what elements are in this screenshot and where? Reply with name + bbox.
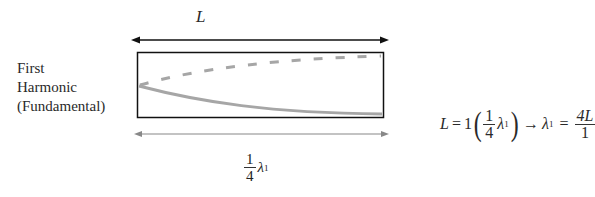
eq-rhs-equals: = (559, 115, 568, 133)
solid-wave-curve (139, 86, 382, 114)
eq-rhs-den: 1 (581, 125, 589, 141)
length-label: L (196, 7, 205, 26)
eq-rhs-lambda-sub: 1 (549, 119, 554, 129)
dashed-wave-curve (140, 56, 381, 85)
quarter-wavelength-label: 1 4 λ1 (244, 151, 269, 184)
eq-rhs-fraction: 4L 1 (575, 108, 595, 141)
length-arrow (131, 37, 389, 44)
lambda-subscript: 1 (264, 163, 269, 173)
eq-rhs-lambda: λ (542, 115, 549, 133)
quarter-wavelength-arrow (134, 131, 389, 137)
eq-rhs-num: 4L (575, 108, 595, 125)
harmonic-label-line-3: (Fundamental) (17, 97, 105, 116)
fraction-denominator: 4 (246, 168, 254, 184)
eq-fraction: 1 4 (483, 108, 495, 141)
fraction-numerator: 1 (244, 151, 256, 168)
eq-lhs: L (440, 115, 449, 133)
eq-frac-den: 4 (485, 125, 493, 141)
right-paren: ) (510, 107, 518, 141)
eq-equals: = (452, 115, 461, 133)
harmonic-label-line-1: First (17, 59, 105, 78)
left-paren: ( (474, 107, 482, 141)
harmonic-label-line-2: Harmonic (17, 78, 105, 97)
wavelength-equation: L = 1 ( 1 4 λ1 ) → λ1 = 4L 1 (440, 107, 595, 141)
eq-lambda: λ (497, 115, 504, 133)
eq-frac-num: 1 (483, 108, 495, 125)
harmonic-label: First Harmonic (Fundamental) (17, 59, 105, 116)
arrow-icon: → (523, 115, 539, 133)
eq-coef: 1 (464, 115, 472, 133)
eq-lambda-sub: 1 (504, 119, 509, 129)
quarter-fraction: 1 4 (244, 151, 256, 184)
